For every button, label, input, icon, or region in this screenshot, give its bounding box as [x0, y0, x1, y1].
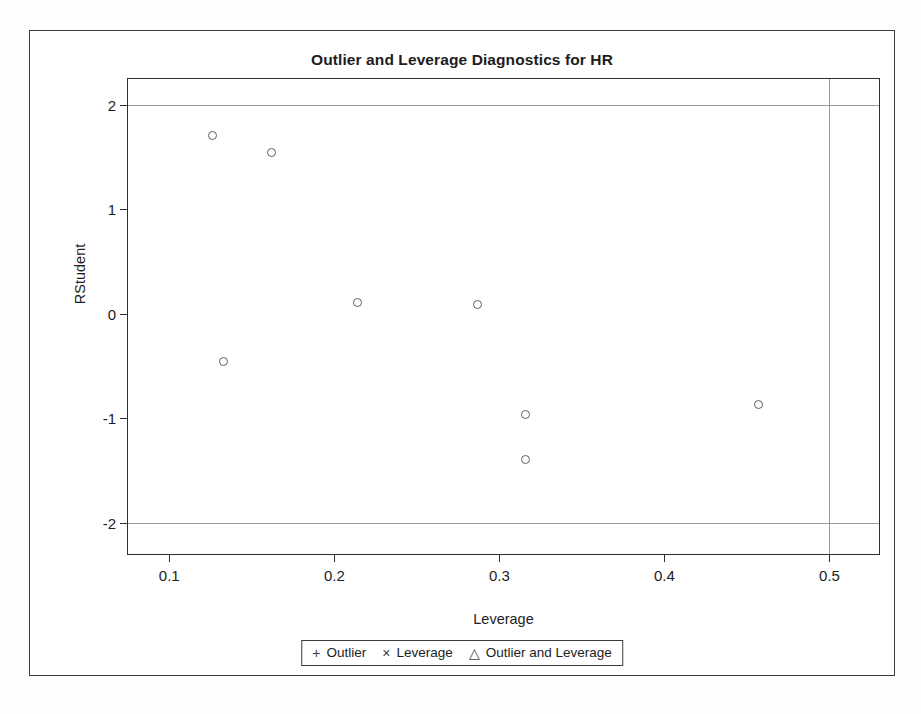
reference-line-horizontal [128, 105, 879, 106]
legend-symbol-icon: × [382, 646, 390, 660]
reference-line-horizontal [128, 523, 879, 524]
x-axis-tick [334, 554, 335, 562]
y-axis-tick-label: -2 [103, 514, 116, 531]
y-axis-tick [120, 523, 128, 524]
y-axis-tick-label: 2 [108, 97, 116, 114]
chart-title: Outlier and Leverage Diagnostics for HR [30, 51, 894, 69]
data-point-marker [208, 131, 217, 140]
page-background: Outlier and Leverage Diagnostics for HR … [0, 0, 921, 714]
y-axis-tick [120, 105, 128, 106]
data-point-marker [521, 410, 530, 419]
data-point-marker [473, 300, 482, 309]
y-axis-tick-label: -1 [103, 410, 116, 427]
plot-area: 210-1-20.10.20.30.40.5 [127, 78, 880, 555]
x-axis-tick-label: 0.4 [654, 567, 675, 584]
y-axis-tick [120, 209, 128, 210]
x-axis-title: Leverage [127, 611, 880, 627]
data-point-marker [754, 400, 763, 409]
legend-label: Outlier and Leverage [486, 645, 612, 660]
legend-entry: +Outlier [312, 645, 366, 660]
data-point-marker [353, 298, 362, 307]
x-axis-tick-label: 0.3 [489, 567, 510, 584]
x-axis-tick-label: 0.2 [324, 567, 345, 584]
y-axis-tick-label: 1 [108, 201, 116, 218]
legend-label: Outlier [326, 645, 366, 660]
x-axis-tick [664, 554, 665, 562]
x-axis-tick [169, 554, 170, 562]
x-axis-tick-label: 0.1 [159, 567, 180, 584]
reference-line-vertical [829, 79, 830, 554]
x-axis-tick-label: 0.5 [819, 567, 840, 584]
legend-symbol-icon: + [312, 646, 320, 660]
legend-entry: △Outlier and Leverage [469, 645, 612, 660]
data-point-marker [521, 455, 530, 464]
figure-frame: Outlier and Leverage Diagnostics for HR … [29, 30, 895, 676]
y-axis-tick [120, 418, 128, 419]
x-axis-tick [499, 554, 500, 562]
x-axis-tick [829, 554, 830, 562]
legend-symbol-icon: △ [469, 646, 480, 660]
data-point-marker [267, 148, 276, 157]
data-point-marker [219, 357, 228, 366]
legend-entry: ×Leverage [382, 645, 452, 660]
y-axis-tick-label: 0 [108, 305, 116, 322]
y-axis-tick [120, 314, 128, 315]
y-axis-title: RStudent [72, 214, 88, 334]
chart-legend: +Outlier×Leverage△Outlier and Leverage [301, 640, 623, 666]
legend-label: Leverage [396, 645, 452, 660]
